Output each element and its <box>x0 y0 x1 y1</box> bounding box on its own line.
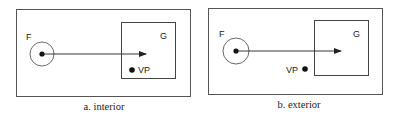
vp-dot <box>302 66 308 72</box>
panel-exterior: F G VP b. exterior <box>209 9 383 111</box>
goal-label: G <box>160 31 167 41</box>
diagram-canvas: F G VP a. interior F G VP b. exterior <box>0 0 395 119</box>
goal-region <box>315 21 369 76</box>
panel-interior: F G VP a. interior <box>17 10 191 113</box>
caption: a. interior <box>84 101 125 112</box>
focus-label: F <box>26 32 32 42</box>
focus-label: F <box>219 29 225 39</box>
vp-label: VP <box>138 65 150 75</box>
vp-dot <box>129 67 135 73</box>
vp-label: VP <box>286 65 298 75</box>
caption: b. exterior <box>277 99 321 110</box>
goal-label: G <box>353 29 360 39</box>
